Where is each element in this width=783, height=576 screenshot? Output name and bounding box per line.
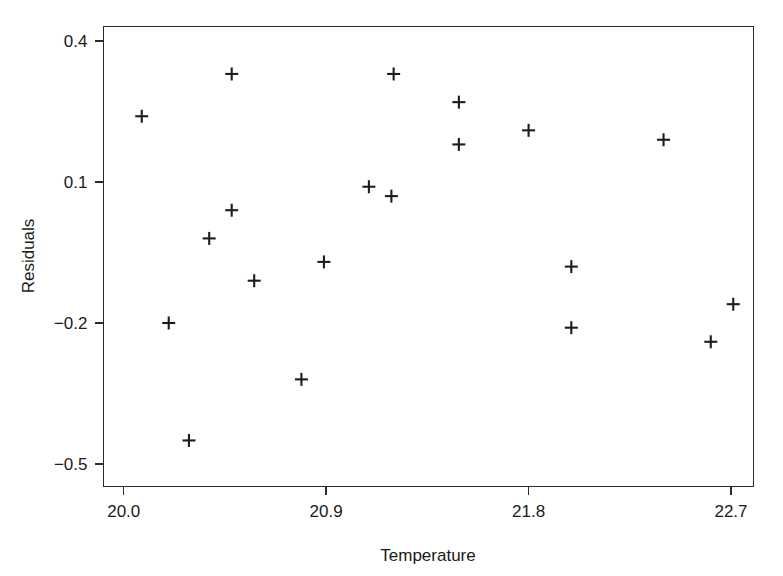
x-axis-ticks [124,487,731,495]
y-tick-label: 0.4 [64,32,88,51]
data-point [295,373,308,386]
data-point [385,190,398,203]
y-tick-label: 0.1 [64,173,88,192]
data-point [182,434,195,447]
x-axis-title: Temperature [380,546,475,565]
y-axis-ticks [95,41,104,464]
y-axis-title: Residuals [19,219,38,294]
data-point [522,124,535,137]
y-axis-tick-labels: 0.40.1−0.2−0.5 [54,32,88,474]
data-point [387,67,400,80]
data-point [162,316,175,329]
y-tick-label: −0.2 [54,314,88,333]
y-tick-label: −0.5 [54,455,88,474]
data-point [452,96,465,109]
data-point [452,138,465,151]
x-tick-label: 21.8 [512,502,545,521]
data-point [248,274,261,287]
scatter-plot-figure: 20.020.921.822.7 0.40.1−0.2−0.5 Temperat… [0,0,783,576]
data-point [704,335,717,348]
x-tick-label: 20.0 [107,502,140,521]
data-point [203,232,216,245]
plot-canvas: 20.020.921.822.7 0.40.1−0.2−0.5 Temperat… [0,0,783,576]
data-point [225,204,238,217]
data-point [657,133,670,146]
data-point [135,110,148,123]
data-point-markers [135,67,740,446]
x-tick-label: 22.7 [714,502,747,521]
data-point [225,67,238,80]
plot-frame [104,27,754,487]
data-point [565,260,578,273]
data-point [362,180,375,193]
data-point [727,298,740,311]
data-point [317,255,330,268]
x-tick-label: 20.9 [310,502,343,521]
x-axis-tick-labels: 20.020.921.822.7 [107,502,747,521]
data-point [565,321,578,334]
